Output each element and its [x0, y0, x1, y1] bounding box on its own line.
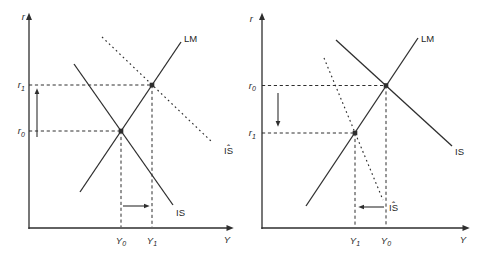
left-is-label: IS: [176, 207, 185, 218]
left-lm-label: LM: [184, 33, 197, 44]
right-y-axis-label: Y: [460, 234, 467, 245]
left-r0-tick: r0: [18, 125, 25, 137]
right-r0-tick: r0: [249, 80, 256, 92]
left-y1-tick: Y1: [147, 235, 158, 247]
left-panel: r Y LM IS ˆ IS r1 r0 Y0 Y1: [18, 11, 233, 247]
right-panel: r Y LM IS ˆ IS r0 r1 Y1 Y0: [249, 13, 467, 247]
right-equilibrium-point-initial: [384, 83, 389, 88]
left-r1-tick: r1: [18, 79, 25, 91]
left-equilibrium-point-new: [150, 83, 155, 88]
right-is-shifted-label: IS: [389, 202, 398, 213]
right-r-axis-label: r: [250, 13, 254, 24]
left-is-shifted-label: IS: [224, 145, 233, 156]
right-y1-tick: Y1: [350, 235, 361, 247]
left-equilibrium-point-initial: [119, 129, 124, 134]
right-equilibrium-point-new: [353, 131, 358, 136]
left-y0-tick: Y0: [116, 235, 127, 247]
islm-figure-canvas: r Y LM IS ˆ IS r1 r0 Y0 Y1 r Y: [0, 0, 486, 254]
left-y-axis-label: Y: [224, 234, 231, 245]
right-is-shifted-curve: [324, 58, 383, 200]
islm-two-panel-figure: r Y LM IS ˆ IS r1 r0 Y0 Y1 r Y: [0, 0, 486, 254]
right-lm-label: LM: [421, 33, 434, 44]
right-y0-tick: Y0: [381, 235, 392, 247]
right-r1-tick: r1: [249, 127, 256, 139]
left-r-axis-label: r: [22, 11, 26, 22]
right-is-label: IS: [455, 146, 464, 157]
